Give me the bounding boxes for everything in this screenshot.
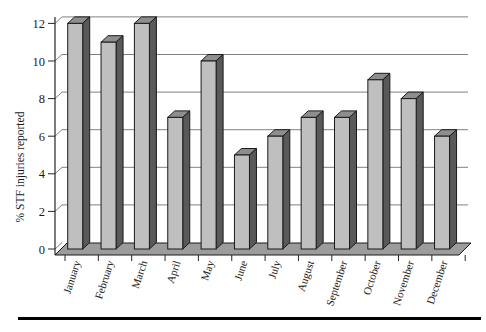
y-tick-label: 8 xyxy=(39,92,45,106)
x-label-june: June xyxy=(232,259,250,282)
bottom-rule xyxy=(18,317,481,320)
bar-june xyxy=(234,149,256,250)
stf-injuries-chart: 024681012JanuaryFebruaryMarchAprilMayJun… xyxy=(0,0,486,332)
x-label-november: November xyxy=(390,259,416,307)
bar-november xyxy=(401,92,423,249)
y-grid-connector xyxy=(55,205,62,212)
bar-april xyxy=(168,111,190,249)
bar-july xyxy=(268,130,290,249)
y-grid-connector xyxy=(55,130,62,137)
y-tick-label: 12 xyxy=(33,17,46,31)
bar-side-face xyxy=(383,73,390,249)
x-label-july: July xyxy=(266,258,283,280)
bar-may xyxy=(201,55,223,250)
y-tick-label: 2 xyxy=(39,205,45,219)
y-grid-connector xyxy=(55,55,62,62)
bar-side-face xyxy=(116,36,123,249)
bar-front-face xyxy=(168,117,183,249)
x-label-december: December xyxy=(424,259,449,306)
bar-side-face xyxy=(350,111,357,249)
bar-october xyxy=(368,73,390,249)
bar-front-face xyxy=(301,117,316,249)
y-grid-connector xyxy=(55,92,62,99)
bar-side-face xyxy=(149,17,156,249)
bar-front-face xyxy=(101,42,116,249)
y-tick-label: 4 xyxy=(39,167,46,181)
x-label-october: October xyxy=(360,259,382,297)
x-label-february: February xyxy=(92,258,116,300)
bar-chart-canvas: 024681012JanuaryFebruaryMarchAprilMayJun… xyxy=(0,0,486,332)
bar-side-face xyxy=(83,17,90,249)
bar-september xyxy=(335,111,357,249)
bar-front-face xyxy=(368,80,383,249)
bar-front-face xyxy=(435,136,450,249)
y-axis-title: % STF injuries reported xyxy=(14,111,27,222)
y-tick-label: 6 xyxy=(39,130,45,144)
bar-front-face xyxy=(268,136,283,249)
y-tick-label: 0 xyxy=(39,243,45,257)
bar-front-face xyxy=(401,99,416,249)
x-label-march: March xyxy=(129,258,149,289)
bar-side-face xyxy=(283,130,290,249)
bar-march xyxy=(134,17,156,249)
bar-front-face xyxy=(68,23,83,249)
bar-august xyxy=(301,111,323,249)
bar-february xyxy=(101,36,123,249)
y-grid-connector xyxy=(55,167,62,174)
bar-front-face xyxy=(234,155,249,249)
x-label-january: January xyxy=(61,258,83,295)
bar-december xyxy=(435,130,457,249)
bar-front-face xyxy=(201,61,216,249)
y-grid-connector xyxy=(55,17,62,24)
x-label-september: September xyxy=(323,259,349,308)
bar-side-face xyxy=(249,149,256,250)
bar-january xyxy=(68,17,90,249)
bar-side-face xyxy=(450,130,457,249)
bar-side-face xyxy=(416,92,423,249)
bar-side-face xyxy=(216,55,223,250)
x-label-august: August xyxy=(295,259,316,293)
y-tick-label: 10 xyxy=(33,55,46,69)
x-label-april: April xyxy=(164,259,183,285)
bar-front-face xyxy=(134,23,149,249)
x-label-may: May xyxy=(198,258,216,281)
bar-side-face xyxy=(316,111,323,249)
bar-side-face xyxy=(183,111,190,249)
y-grid-connector xyxy=(55,243,62,250)
bar-front-face xyxy=(335,117,350,249)
